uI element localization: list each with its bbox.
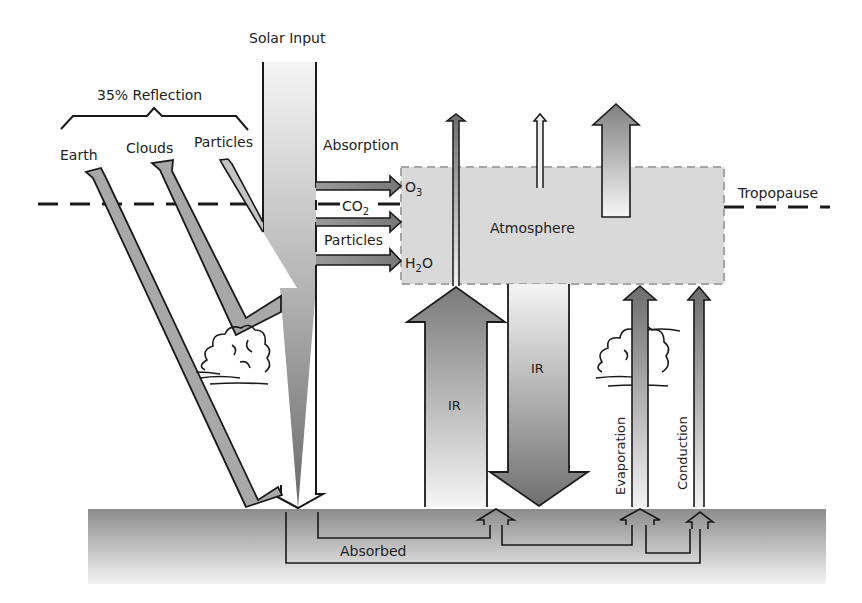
reflection-earth-label: Earth xyxy=(60,147,98,163)
ir-up-arrow xyxy=(407,287,505,507)
ir-up-label: IR xyxy=(448,398,461,413)
reflection-bracket xyxy=(61,108,248,130)
solar-input-label: Solar Input xyxy=(249,30,326,46)
absorbed-label: Absorbed xyxy=(340,543,406,559)
reflection-clouds-label: Clouds xyxy=(126,140,173,156)
reflection-particles-label: Particles xyxy=(194,134,253,150)
absorption-particles-label: Particles xyxy=(324,232,383,248)
evaporation-label: Evaporation xyxy=(613,417,628,495)
absorption-label: Absorption xyxy=(323,137,399,153)
conduction-arrow xyxy=(688,287,710,507)
reflection-arrow-clouds xyxy=(152,160,281,335)
evaporation-arrow xyxy=(624,286,656,507)
co2-label: CO2 xyxy=(342,198,369,217)
tropopause-label: Tropopause xyxy=(737,185,818,201)
cloud-icon-left xyxy=(196,325,270,384)
atmosphere-label: Atmosphere xyxy=(490,220,575,236)
reflection-label: 35% Reflection xyxy=(97,87,202,103)
absorption-arrows xyxy=(316,176,401,271)
reflection-arrow-particles xyxy=(220,159,263,232)
energy-budget-diagram: Solar Input 35% Reflection Earth Clouds … xyxy=(0,0,862,603)
ir-down-label: IR xyxy=(531,361,544,376)
ir-down-arrow xyxy=(490,284,588,506)
ground-surface xyxy=(88,509,826,584)
solar-input-arrow xyxy=(263,62,323,508)
conduction-label: Conduction xyxy=(675,416,690,490)
